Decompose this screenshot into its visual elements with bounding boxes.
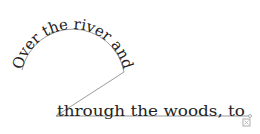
type-on-path-canvas[interactable]: Over the river and through the woods, to [0,0,260,134]
arc-text: Over the river and [8,15,137,71]
overflow-plus-icon[interactable] [243,119,250,126]
path-end-anchor[interactable] [249,115,252,118]
line-text: through the woods, to [57,102,245,120]
